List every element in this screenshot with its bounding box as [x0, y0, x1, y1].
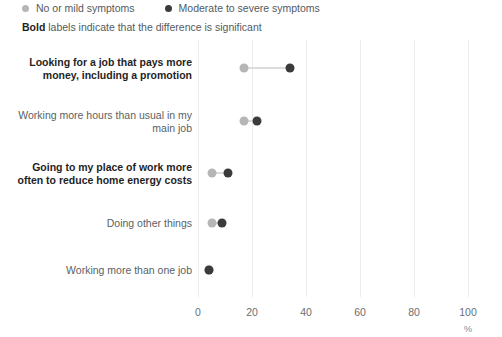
x-tick-label-20: 20	[246, 306, 258, 318]
x-tick-label-40: 40	[300, 306, 312, 318]
legend-item-no-or-mild: No or mild symptoms	[22, 3, 135, 14]
significance-caption: Bold labels indicate that the difference…	[22, 21, 262, 33]
x-tick-label-100: 100	[459, 306, 477, 318]
chart-legend: No or mild symptoms Moderate to severe s…	[22, 0, 350, 16]
x-tick-label-60: 60	[354, 306, 366, 318]
x-axis-unit-label: %	[464, 323, 472, 334]
chart-x-axis: 020406080100%	[0, 40, 502, 337]
legend-label-no-or-mild: No or mild symptoms	[36, 3, 135, 14]
legend-marker-no-or-mild	[22, 5, 29, 12]
chart-plot-area: Looking for a job that pays more money, …	[0, 40, 502, 337]
legend-marker-moderate-to-severe	[165, 5, 172, 12]
caption-rest: labels indicate that the difference is s…	[45, 21, 261, 33]
legend-item-moderate-to-severe: Moderate to severe symptoms	[165, 3, 320, 14]
x-tick-label-0: 0	[195, 306, 201, 318]
legend-label-moderate-to-severe: Moderate to severe symptoms	[179, 3, 320, 14]
x-tick-label-80: 80	[408, 306, 420, 318]
caption-bold-word: Bold	[22, 21, 45, 33]
